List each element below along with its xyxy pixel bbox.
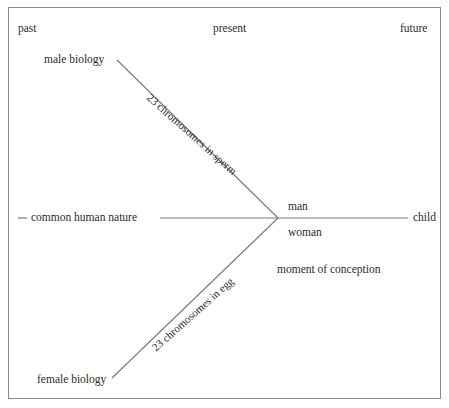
- node-label-common-human-nature: common human nature: [31, 212, 137, 224]
- timeline-label-past: past: [18, 23, 37, 35]
- node-label-woman: woman: [288, 227, 322, 239]
- timeline-label-present: present: [213, 23, 246, 35]
- line-female-to-conception: [112, 218, 278, 378]
- node-label-child: child: [413, 212, 436, 224]
- node-label-man: man: [288, 201, 308, 213]
- genealogy-diagram: past present future male biology female …: [0, 0, 449, 408]
- node-label-female-biology: female biology: [37, 374, 106, 386]
- node-label-male-biology: male biology: [44, 54, 104, 66]
- timeline-label-future: future: [400, 23, 427, 35]
- annotation-moment-of-conception: moment of conception: [277, 264, 380, 276]
